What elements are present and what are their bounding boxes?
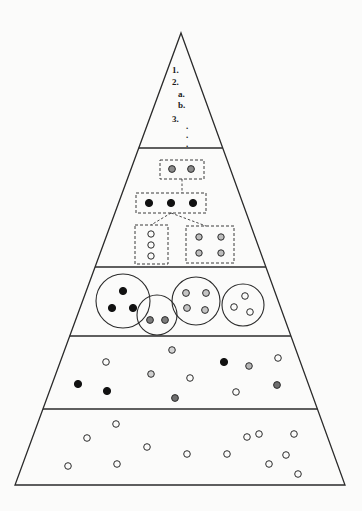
scatter-dot-tier-five <box>266 461 273 468</box>
cluster-black-three-dot <box>108 304 115 311</box>
middle-to-left-connector <box>151 213 171 225</box>
middle-dashed-box-dot <box>167 199 174 206</box>
cluster-hollow-three <box>222 284 264 326</box>
scatter-dot-tier-four <box>220 358 227 365</box>
cluster-black-three-dot <box>119 287 126 294</box>
cluster-gray-two-dot <box>147 317 154 324</box>
lower-right-dashed-box <box>186 226 234 263</box>
scatter-dot-tier-five <box>244 434 251 441</box>
scatter-dot-tier-four <box>172 395 179 402</box>
scatter-dot-tier-four <box>275 355 282 362</box>
scatter-dot-tier-five <box>291 431 298 438</box>
scatter-dot-tier-four <box>148 371 155 378</box>
lower-right-dashed-box-dot <box>218 250 224 256</box>
apex-outline-line-1: 1. <box>172 66 179 75</box>
scatter-dot-tier-four <box>246 363 253 370</box>
scatter-dot-tier-four <box>74 380 81 387</box>
apex-outline-line-2: 2. <box>172 78 179 87</box>
scatter-dot-tier-five <box>113 421 120 428</box>
lower-right-dashed-box-dot <box>218 234 224 240</box>
lower-left-dashed-box-dot <box>148 231 154 237</box>
cluster-black-three-dot <box>129 304 136 311</box>
cluster-hollow-three-dot <box>231 304 238 311</box>
lower-right-dashed-box-dot <box>196 234 202 240</box>
scatter-dot-tier-five <box>65 463 72 470</box>
scatter-dot-tier-five <box>144 444 151 451</box>
scatter-dot-tier-five <box>84 435 91 442</box>
scatter-dot-tier-four <box>274 382 281 389</box>
apex-outline-line-4: b. <box>178 101 185 110</box>
scatter-dot-tier-five <box>256 431 263 438</box>
scatter-dot-tier-five <box>224 451 231 458</box>
pyramid-figure <box>0 0 362 511</box>
cluster-gray-four-dot <box>184 305 191 312</box>
middle-dashed-box-dot <box>189 199 196 206</box>
scatter-dot-tier-four <box>103 387 110 394</box>
apex-outline-line-5: 3. <box>172 115 179 124</box>
scatter-dot-tier-five <box>295 471 302 478</box>
cluster-gray-four-dot <box>203 290 210 297</box>
scatter-dot-tier-five <box>114 461 121 468</box>
scatter-dot-tier-four <box>233 389 240 396</box>
cluster-gray-two-dot <box>162 317 169 324</box>
pyramid-diagram-canvas: 1.2.a.b.3.... <box>0 0 362 511</box>
lower-right-dashed-box-dot <box>196 250 202 256</box>
scatter-dot-tier-four <box>103 359 110 366</box>
apex-outline-line-8: . <box>186 140 188 149</box>
lower-left-dashed-box-dot <box>148 242 154 248</box>
top-dashed-box-dot <box>188 166 195 173</box>
cluster-gray-four <box>172 277 220 325</box>
cluster-gray-four-dot <box>202 307 209 314</box>
middle-to-right-connector <box>171 213 206 226</box>
scatter-dot-tier-four <box>169 347 176 354</box>
scatter-dot-tier-five <box>184 451 191 458</box>
cluster-black-three <box>96 274 150 328</box>
cluster-hollow-three-dot <box>242 293 249 300</box>
top-dashed-box <box>160 160 204 179</box>
lower-left-dashed-box-dot <box>148 253 154 259</box>
cluster-hollow-three-dot <box>247 309 254 316</box>
cluster-gray-four-dot <box>183 290 190 297</box>
middle-dashed-box-dot <box>145 199 152 206</box>
scatter-dot-tier-four <box>187 375 194 382</box>
apex-outline-line-3: a. <box>178 90 185 99</box>
scatter-dot-tier-five <box>283 452 290 459</box>
cluster-gray-two <box>137 295 177 335</box>
top-dashed-box-dot <box>169 166 176 173</box>
